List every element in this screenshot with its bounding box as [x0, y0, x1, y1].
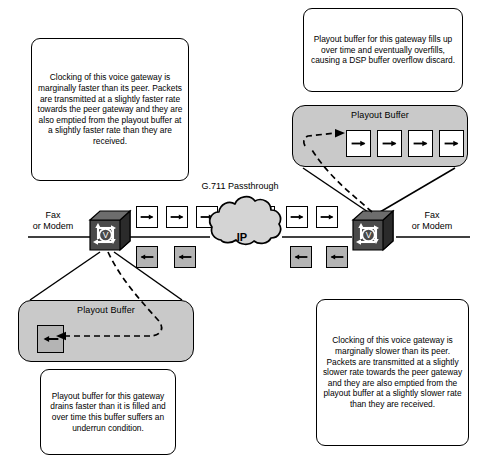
note-bottom-right: Clocking of this voice gateway is margin…	[316, 299, 469, 446]
buffer-left-packet-1	[37, 325, 64, 353]
packet-return-2	[174, 246, 196, 268]
playout-buffer-right: Playout Buffer	[292, 105, 468, 167]
label-g711-passthrough: G.711 Passthrough	[180, 181, 300, 192]
buffer-right-packet-3	[408, 130, 433, 157]
label-ip-cloud: IP	[218, 231, 266, 245]
buffer-right-packet-2	[377, 130, 402, 157]
svg-text:V: V	[103, 230, 109, 240]
label-endpoint-right: Fax or Modem	[399, 210, 465, 233]
note-top-left: Clocking of this voice gateway is margin…	[31, 38, 189, 181]
packet-return-3	[290, 246, 312, 268]
packet-forward-2	[166, 206, 188, 228]
packet-forward-6	[316, 206, 338, 228]
svg-text:V: V	[366, 230, 372, 240]
playout-buffer-right-title: Playout Buffer	[293, 110, 467, 120]
packet-forward-1	[136, 206, 158, 228]
buffer-right-packet-4	[439, 130, 464, 157]
playout-buffer-left-title: Playout Buffer	[19, 305, 193, 315]
label-endpoint-left: Fax or Modem	[20, 210, 86, 233]
packet-forward-5	[286, 206, 308, 228]
packet-return-4	[326, 246, 348, 268]
router-voice-cube-icon: V	[351, 208, 395, 254]
diagram-canvas: V V G.711 Passthrough IP Fax or Modem Fa…	[0, 0, 485, 470]
voice-gateway-right[interactable]: V	[351, 208, 395, 254]
packet-forward-4	[253, 206, 275, 228]
note-bottom-left: Playout buffer for this gateway drains f…	[40, 369, 176, 455]
playout-buffer-left: Playout Buffer	[18, 300, 194, 362]
packet-return-1	[136, 246, 158, 268]
buffer-right-packet-1	[346, 130, 371, 157]
router-voice-cube-icon: V	[88, 208, 132, 254]
voice-gateway-left[interactable]: V	[88, 208, 132, 254]
packet-forward-3	[196, 206, 218, 228]
note-top-right: Playout buffer for this gateway fills up…	[303, 8, 463, 92]
